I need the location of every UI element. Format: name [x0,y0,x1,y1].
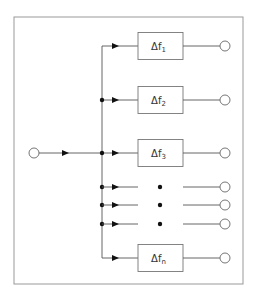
input-terminal [29,148,39,158]
filter-branch-fn: Δfn [102,245,230,272]
branch-arrow-icon [112,150,119,156]
output-terminal-f3 [220,148,230,158]
output-terminal [220,182,230,192]
output-terminal-f1 [220,41,230,51]
branch-arrow-icon [112,184,119,190]
output-terminal [220,200,230,210]
junction-dot [100,151,104,155]
input-arrow-icon [62,150,69,156]
ellipsis-branch-1 [100,182,230,192]
filter-branch-f2: Δf2 [100,87,230,114]
output-terminal-fn [220,253,230,263]
filter-branch-f3: Δf3 [100,140,230,167]
filter-branch-f1: Δf1 [102,33,230,60]
branch-arrow-icon [112,221,119,227]
outer-frame [14,17,243,284]
ellipsis-dot [158,185,162,189]
branch-arrow-icon [112,43,119,49]
branch-arrow-icon [112,97,119,103]
ellipsis-branch-3 [100,219,230,229]
ellipsis-dot [158,222,162,226]
ellipsis-branch-2 [100,200,230,210]
branch-arrow-icon [112,202,119,208]
ellipsis-dot [158,203,162,207]
junction-dot [100,98,104,102]
branch-arrow-icon [112,255,119,261]
output-terminal [220,219,230,229]
output-terminal-f2 [220,95,230,105]
filter-bank-diagram: Δf1Δf2Δf3Δfn [0,0,257,301]
